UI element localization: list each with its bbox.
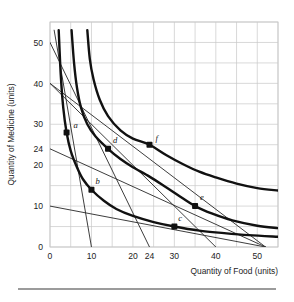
- point-label-a: a: [74, 120, 78, 130]
- data-point-d: [106, 147, 110, 151]
- data-point-a: [64, 130, 68, 134]
- point-label-b: b: [95, 176, 100, 186]
- data-point-f: [147, 143, 151, 147]
- y-tick-20: 20: [33, 160, 43, 170]
- plot-background: [50, 22, 278, 247]
- point-label-c: c: [178, 213, 182, 223]
- x-tick-24: 24: [145, 251, 155, 261]
- x-tick-10: 10: [87, 251, 97, 261]
- y-tick-0: 0: [38, 242, 43, 252]
- y-tick-40: 40: [33, 79, 43, 89]
- x-axis-title: Quantity of Food (units): [190, 266, 278, 276]
- chart-canvas: abcdef01020243040500102024304050Quantity…: [0, 0, 294, 302]
- y-tick-50: 50: [33, 38, 43, 48]
- data-point-e: [193, 204, 197, 208]
- y-tick-30: 30: [33, 119, 43, 129]
- chart-figure: abcdef01020243040500102024304050Quantity…: [0, 0, 294, 302]
- x-tick-50: 50: [252, 251, 262, 261]
- y-axis-title: Quantity of Medicine (units): [6, 83, 16, 185]
- x-tick-30: 30: [170, 251, 180, 261]
- x-tick-20: 20: [128, 251, 138, 261]
- y-tick-24: 24: [33, 144, 43, 154]
- indifference-curve-chart: abcdef01020243040500102024304050Quantity…: [0, 0, 294, 302]
- y-tick-10: 10: [33, 201, 43, 211]
- data-point-c: [172, 224, 176, 228]
- footer-rule: [18, 288, 276, 290]
- x-tick-0: 0: [48, 251, 53, 261]
- point-label-e: e: [200, 192, 204, 202]
- x-tick-40: 40: [211, 251, 221, 261]
- point-label-d: d: [113, 135, 118, 145]
- data-point-b: [89, 188, 93, 192]
